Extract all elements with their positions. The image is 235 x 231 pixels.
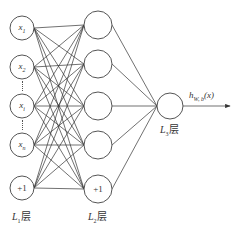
- node-l2-bias-label: +1: [93, 184, 103, 194]
- nodes: [10, 11, 183, 203]
- edges-layer1-to-layer2: [34, 25, 84, 189]
- edge: [34, 188, 84, 189]
- edge: [112, 64, 157, 106]
- neural-network-diagram: [0, 0, 235, 231]
- edge: [112, 106, 157, 145]
- edge: [112, 25, 157, 106]
- output-label: hW, b(x): [189, 90, 214, 102]
- edges-layer2-to-layer3: [112, 25, 157, 189]
- node-l1-xn-label: xn: [19, 139, 26, 151]
- node-l1-bias-label: +1: [17, 183, 27, 193]
- edge: [112, 106, 157, 189]
- node-l1-x1-label: x1: [19, 22, 26, 34]
- node-l1-x2-label: x2: [19, 61, 26, 73]
- node-l2-2: [84, 50, 112, 78]
- node-l2-4: [84, 131, 112, 159]
- edge: [34, 25, 84, 188]
- layer-label-l1: L1层: [12, 208, 31, 224]
- node-l3-1: [157, 93, 183, 119]
- ellipsis-dots-upper: [22, 81, 23, 91]
- edge: [34, 28, 84, 189]
- layer-label-l2: L2层: [88, 208, 107, 224]
- edge: [34, 25, 84, 28]
- node-l2-3: [84, 92, 112, 120]
- edge: [34, 64, 84, 188]
- layer-label-l3: L3层: [160, 121, 179, 137]
- node-l2-1: [84, 11, 112, 39]
- ellipsis-dots-lower: [22, 120, 23, 130]
- node-l1-xi-label: xi: [19, 100, 25, 112]
